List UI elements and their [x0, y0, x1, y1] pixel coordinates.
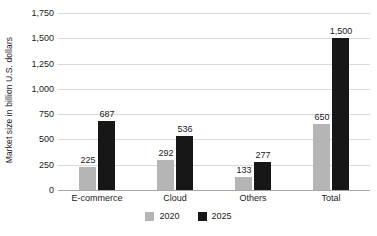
- x-axis-category-labels: E-commerceCloudOthersTotal: [58, 193, 370, 207]
- axis-baseline: [58, 190, 370, 191]
- legend-label: 2020: [159, 212, 179, 221]
- bar-group: 6501,500: [313, 13, 349, 190]
- legend: 20202025: [0, 212, 377, 221]
- bar-total-2025: [332, 38, 349, 190]
- y-axis-tick-label: 750: [0, 110, 54, 119]
- bar-group: 292536: [157, 13, 193, 190]
- y-axis-tick-label: 0: [0, 186, 54, 195]
- bar-others-2025: [254, 162, 271, 190]
- bar-cloud-2025: [176, 136, 193, 190]
- legend-label: 2025: [212, 212, 232, 221]
- bar-value-label: 1,500: [324, 27, 358, 36]
- bar-value-label: 536: [168, 125, 202, 134]
- bar-group: 133277: [235, 13, 271, 190]
- bar-group: 225687: [79, 13, 115, 190]
- legend-swatch-icon-2020: [145, 212, 154, 221]
- y-axis-tick-label: 1,500: [0, 34, 54, 43]
- y-axis-tick-label: 1,250: [0, 60, 54, 69]
- y-axis-tick-label: 250: [0, 161, 54, 170]
- bar-e-commerce-2025: [98, 121, 115, 190]
- plot-area: 2256872925361332776501,500: [58, 13, 370, 190]
- bar-value-label: 687: [90, 110, 124, 119]
- y-axis-tick-label: 500: [0, 135, 54, 144]
- legend-item-2025[interactable]: 2025: [198, 212, 232, 221]
- legend-swatch-icon-2025: [198, 212, 207, 221]
- bar-value-label: 277: [246, 151, 280, 160]
- y-axis-tick-labels: 02505007501,0001,2501,5001,750: [0, 0, 54, 236]
- bar-chart: Market size in billion U.S. dollars 0250…: [0, 0, 377, 236]
- bar-cloud-2020: [157, 160, 174, 190]
- bar-others-2020: [235, 177, 252, 190]
- x-axis-label-total: Total: [281, 193, 377, 204]
- bar-e-commerce-2020: [79, 167, 96, 190]
- bar-total-2020: [313, 124, 330, 190]
- y-axis-tick-label: 1,000: [0, 85, 54, 94]
- y-axis-tick-label: 1,750: [0, 9, 54, 18]
- legend-item-2020[interactable]: 2020: [145, 212, 179, 221]
